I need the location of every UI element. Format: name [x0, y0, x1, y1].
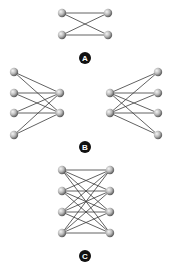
node-sphere — [58, 9, 66, 17]
node-sphere — [106, 109, 114, 117]
figure-c-graph: C — [58, 166, 114, 262]
node-sphere — [58, 208, 66, 216]
node-sphere — [106, 187, 114, 195]
node-sphere — [106, 208, 114, 216]
node-sphere — [10, 109, 18, 117]
figure-b-graphs: B — [10, 68, 162, 153]
fig-a-edges — [62, 13, 108, 35]
figure-label-c: C — [79, 250, 91, 262]
edge — [14, 93, 60, 135]
edge — [110, 72, 158, 113]
node-sphere — [154, 131, 162, 139]
node-sphere — [58, 31, 66, 39]
label-letter: B — [82, 143, 88, 152]
node-sphere — [58, 229, 66, 237]
label-letter: A — [82, 54, 88, 63]
fig-c-edges — [62, 170, 110, 233]
node-sphere — [56, 109, 64, 117]
bipartite-graphs-diagram: A B C — [0, 0, 169, 270]
node-sphere — [106, 229, 114, 237]
b-left-edges — [14, 72, 60, 135]
node-sphere — [106, 166, 114, 174]
node-sphere — [104, 31, 112, 39]
figure-label-b: B — [79, 141, 91, 153]
node-sphere — [58, 166, 66, 174]
edge — [110, 72, 158, 93]
node-sphere — [10, 131, 18, 139]
node-sphere — [154, 89, 162, 97]
b-right-edges — [110, 72, 158, 135]
edge — [110, 113, 158, 135]
label-letter: C — [82, 252, 88, 261]
node-sphere — [154, 68, 162, 76]
node-sphere — [10, 68, 18, 76]
b-right-nodes — [106, 68, 162, 139]
edge — [14, 72, 60, 113]
node-sphere — [104, 9, 112, 17]
edge — [14, 113, 60, 135]
node-sphere — [56, 89, 64, 97]
edge — [14, 72, 60, 93]
b-left-nodes — [10, 68, 64, 139]
node-sphere — [58, 187, 66, 195]
node-sphere — [154, 109, 162, 117]
figure-a-graph: A — [58, 9, 112, 64]
edge — [110, 93, 158, 135]
node-sphere — [10, 89, 18, 97]
figure-label-a: A — [79, 52, 91, 64]
node-sphere — [106, 89, 114, 97]
